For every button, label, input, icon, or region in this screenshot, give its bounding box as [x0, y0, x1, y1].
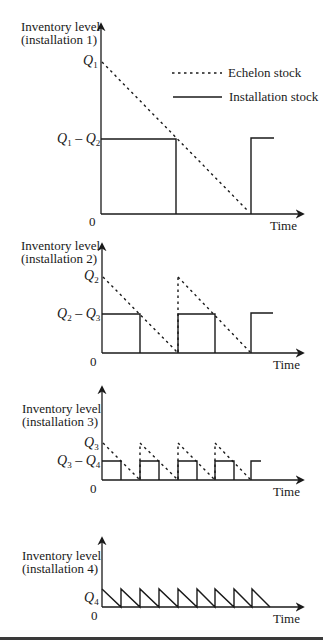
installation-stock-line — [251, 313, 273, 353]
x-axis-label: Time — [273, 357, 300, 372]
tick-q3: Q3 — [84, 435, 99, 452]
x-axis-label: Time — [273, 484, 300, 499]
installation-stock-line — [178, 314, 215, 353]
installation-stock-line — [101, 139, 176, 214]
tick-q2-minus-q3: Q2 – Q3 — [57, 306, 101, 323]
installation-stock-line — [102, 461, 261, 480]
tick-q1-minus-q2: Q1 – Q2 — [57, 131, 100, 148]
bottom-rule-divider — [0, 637, 323, 640]
chart-installation-3: Inventory level (installation 3) Q3 Q3 –… — [22, 387, 303, 499]
chart-installation-1: Inventory level (installation 1) Q1 Q1 –… — [21, 19, 319, 233]
installation-stock-line — [251, 138, 274, 214]
tick-q2: Q2 — [84, 268, 99, 285]
origin-label: 0 — [90, 481, 97, 496]
tick-q3-minus-q4: Q3 – Q4 — [57, 453, 101, 470]
multi-echelon-inventory-diagram: Inventory level (installation 1) Q1 Q1 –… — [0, 0, 323, 641]
installation-stock-line — [102, 314, 140, 353]
x-axis-label: Time — [273, 611, 300, 626]
y-axis-label-line2: (installation 3) — [22, 414, 98, 429]
chart-installation-4: Inventory level (installation 4) Q4 0 Ti… — [22, 538, 303, 626]
x-axis-label: Time — [270, 218, 297, 233]
installation-stock-line — [102, 589, 270, 607]
tick-q4: Q4 — [84, 590, 99, 607]
legend-installation-label: Installation stock — [229, 89, 319, 104]
legend-echelon-label: Echelon stock — [228, 65, 302, 80]
origin-label: 0 — [91, 608, 98, 623]
origin-label: 0 — [90, 354, 97, 369]
legend: Echelon stock Installation stock — [172, 65, 319, 104]
origin-label: 0 — [89, 214, 96, 229]
y-axis-label-line2: (installation 2) — [21, 251, 97, 266]
y-axis-label-line2: (installation 1) — [21, 32, 97, 47]
tick-q1: Q1 — [83, 53, 98, 70]
y-axis-label-line2: (installation 4) — [22, 561, 98, 576]
chart-installation-2: Inventory level (installation 2) Q2 Q2 –… — [21, 238, 303, 372]
